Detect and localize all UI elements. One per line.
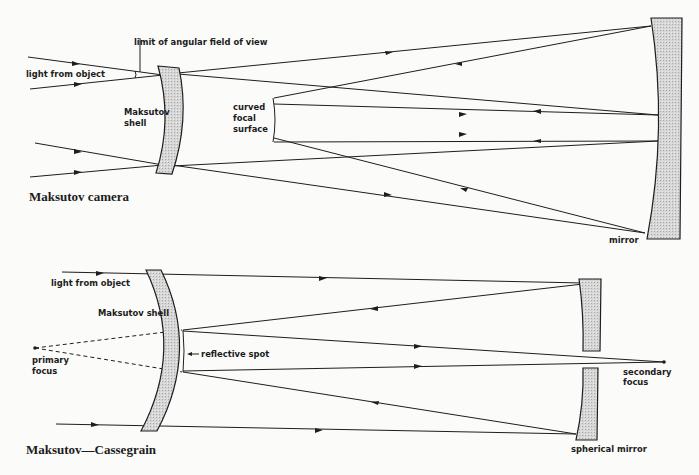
virtual-ray bbox=[35, 330, 182, 348]
primary-mirror bbox=[647, 18, 682, 239]
primary-focus-label-line1: primary bbox=[32, 355, 70, 365]
maksutov-camera-figure: limit of angular field of view light fro… bbox=[26, 18, 682, 245]
primary-focus-point bbox=[33, 346, 37, 350]
light-from-object-label-2: light from object bbox=[51, 278, 130, 288]
figure-title-cassegrain: Maksutov—Cassegrain bbox=[26, 442, 157, 457]
arrow-icon bbox=[74, 149, 82, 154]
limit-of-field-label: limit of angular field of view bbox=[134, 37, 268, 47]
reflective-spot-label: reflective spot bbox=[201, 349, 269, 359]
focal-label-line1: curved bbox=[233, 102, 265, 112]
arrow-icon bbox=[74, 82, 82, 87]
primary-focus-label-line2: focus bbox=[32, 366, 57, 376]
spherical-mirror-label: spherical mirror bbox=[571, 444, 648, 454]
shell-label-2: Maksutov shell bbox=[98, 308, 169, 318]
reflective-spot bbox=[183, 330, 184, 372]
focal-label-line3: surface bbox=[233, 124, 268, 134]
curved-focal-surface bbox=[273, 98, 275, 142]
secondary-focus-label-line1: secondary bbox=[623, 367, 672, 377]
figure-title-camera: Maksutov camera bbox=[29, 189, 130, 204]
cassegrain-maksutov-shell bbox=[141, 270, 180, 431]
focal-label-line2: focal bbox=[233, 113, 256, 123]
reflected-rays bbox=[274, 26, 658, 233]
maksutov-cassegrain-figure: light from object Maksutov shell reflect… bbox=[26, 270, 672, 457]
light-from-object-label: light from object bbox=[26, 69, 105, 79]
optical-diagram: limit of angular field of view light fro… bbox=[0, 0, 699, 475]
mirror-label: mirror bbox=[609, 235, 640, 245]
spherical-mirror-lower bbox=[576, 368, 598, 440]
secondary-focus-label-line2: focus bbox=[623, 377, 648, 387]
secondary-focus-point bbox=[662, 360, 666, 364]
spherical-mirror-upper bbox=[579, 279, 601, 351]
maksutov-shell bbox=[156, 66, 183, 174]
shell-label-line2: shell bbox=[124, 118, 146, 128]
shell-label-line1: Maksutov bbox=[124, 107, 170, 117]
